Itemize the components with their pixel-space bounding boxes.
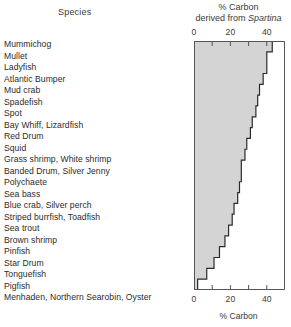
species-label: Sea trout bbox=[4, 223, 192, 235]
x-axis-label: % Carbon bbox=[186, 311, 291, 321]
species-label: Spot bbox=[4, 108, 192, 120]
figure-spartina-carbon: Species % Carbon derived from Spartina M… bbox=[0, 0, 291, 327]
species-label: Squid bbox=[4, 143, 192, 155]
species-column-header: Species bbox=[58, 7, 91, 17]
species-label: Mullet bbox=[4, 51, 192, 63]
species-label: Pinfish bbox=[4, 246, 192, 258]
species-label: Bay Whiff, Lizardfish bbox=[4, 120, 192, 132]
step-area-fill bbox=[194, 41, 272, 290]
bottom-tick-label: 20 bbox=[220, 294, 240, 304]
step-area-chart bbox=[194, 41, 285, 290]
species-label: Grass shrimp, White shrimp bbox=[4, 154, 192, 166]
species-label: Brown shrimp bbox=[4, 235, 192, 247]
species-label: Polychaete bbox=[4, 177, 192, 189]
species-label: Striped burrfish, Toadfish bbox=[4, 212, 192, 224]
species-label: Menhaden, Northern Searobin, Oyster bbox=[4, 292, 192, 304]
species-label: Tonguefish bbox=[4, 269, 192, 281]
species-label: Pigfish bbox=[4, 281, 192, 293]
species-label: Mud crab bbox=[4, 85, 192, 97]
species-label-list: MummichogMulletLadyfishAtlantic BumperMu… bbox=[4, 39, 192, 304]
species-label: Red Drum bbox=[4, 131, 192, 143]
species-label: Sea bass bbox=[4, 189, 192, 201]
chart-title-line2-prefix: derived from bbox=[195, 13, 248, 23]
chart-title-line1: % Carbon bbox=[186, 2, 291, 13]
chart-title-genus-spartina: Spartina bbox=[248, 13, 282, 23]
top-tick-label: 40 bbox=[257, 27, 277, 37]
species-label: Mummichog bbox=[4, 39, 192, 51]
species-label: Ladyfish bbox=[4, 62, 192, 74]
species-label: Spadefish bbox=[4, 97, 192, 109]
species-label: Banded Drum, Silver Jenny bbox=[4, 166, 192, 178]
species-label: Blue crab, Silver perch bbox=[4, 200, 192, 212]
species-label: Star Drum bbox=[4, 258, 192, 270]
species-label: Atlantic Bumper bbox=[4, 74, 192, 86]
top-tick-label: 20 bbox=[220, 27, 240, 37]
step-plot-area bbox=[194, 41, 285, 290]
bottom-tick-label: 0 bbox=[184, 294, 204, 304]
bottom-tick-label: 40 bbox=[257, 294, 277, 304]
top-tick-label: 0 bbox=[184, 27, 204, 37]
chart-title: % Carbon derived from Spartina bbox=[186, 2, 291, 24]
chart-title-line2: derived from Spartina bbox=[186, 13, 291, 24]
